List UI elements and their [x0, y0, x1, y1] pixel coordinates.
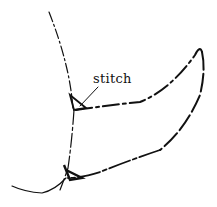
right-edge-line	[160, 52, 204, 150]
diagram-canvas: stitch	[0, 0, 217, 207]
tail-line	[12, 178, 66, 193]
stitch-label: stitch	[93, 71, 132, 86]
sketch-drawing	[0, 0, 217, 207]
lower-curve-line	[68, 150, 160, 178]
label-pointer	[80, 87, 98, 106]
